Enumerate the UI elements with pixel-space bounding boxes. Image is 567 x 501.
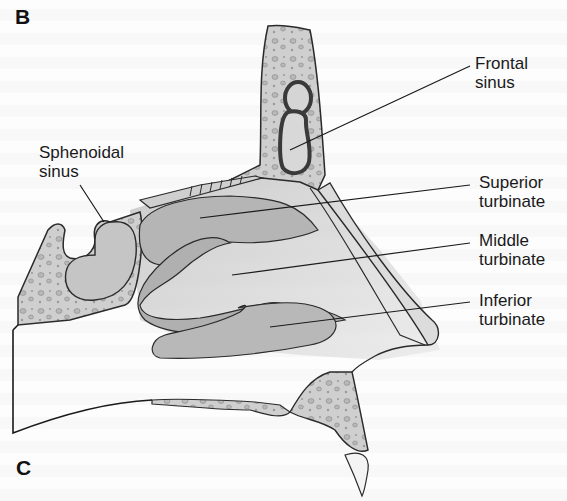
label-frontal-sinus: Frontal sinus xyxy=(475,54,528,92)
panel-letter-b: B xyxy=(15,5,30,29)
panel-letter-c: C xyxy=(16,456,31,480)
label-sphenoidal-sinus: Sphenoidal sinus xyxy=(39,143,124,181)
maxilla xyxy=(290,372,368,451)
label-superior-turbinate: Superior turbinate xyxy=(479,173,545,211)
hard-palate xyxy=(152,345,428,496)
label-inferior-turbinate: Inferior turbinate xyxy=(479,291,545,329)
incisor-tooth xyxy=(345,453,368,496)
frontal-sinus-cavity xyxy=(280,82,311,173)
frontal-bone xyxy=(210,25,325,190)
label-middle-turbinate: Middle turbinate xyxy=(479,231,545,269)
leader-line-sphenoidal-sinus xyxy=(80,185,104,222)
sphenoid-bone xyxy=(18,212,142,325)
posterior-outline xyxy=(13,325,152,433)
